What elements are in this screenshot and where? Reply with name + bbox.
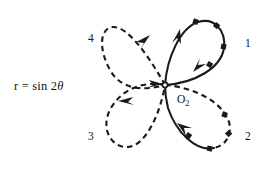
petal-1-group [165, 18, 227, 85]
petal-4-arrowhead [136, 35, 150, 50]
petal-2-marker [221, 111, 228, 118]
petal-label-4: 4 [88, 33, 94, 45]
petal-4-outer-edge [102, 27, 165, 88]
origin-point [162, 82, 167, 87]
petal-3-arrowhead [118, 97, 134, 105]
petal-2-marker [225, 130, 232, 137]
equation-text: r = sin 2 [14, 79, 57, 93]
petal-4-group [102, 27, 165, 88]
petal-label-2: 2 [245, 131, 251, 143]
petal-2-solid-edge [165, 85, 214, 149]
petal-2-marker [207, 146, 213, 152]
origin-label: O2 [177, 94, 189, 108]
polar-rose-figure: r = sin 2θ 1 2 3 4 O2 [0, 0, 270, 174]
origin-label-subscript: 2 [185, 99, 189, 108]
petal-1-curve [165, 21, 224, 85]
petal-label-3: 3 [88, 131, 94, 143]
petal-3-outer-edge [106, 84, 165, 147]
petal-3-group [106, 84, 165, 147]
petal-1-marker [221, 44, 227, 50]
petal-label-1: 1 [245, 38, 251, 50]
theta-symbol: θ [57, 79, 63, 93]
polar-equation-label: r = sin 2θ [14, 79, 64, 94]
petal-1-arrowhead-return [193, 58, 206, 72]
petal-2-dashed-edge [165, 85, 230, 148]
petal-2-group [165, 85, 232, 152]
